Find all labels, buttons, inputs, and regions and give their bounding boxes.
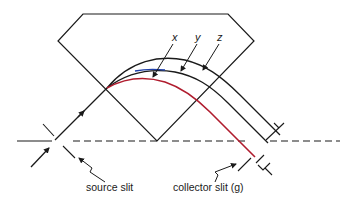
collector-exit	[266, 123, 284, 140]
leader-source-slit	[79, 158, 105, 182]
leader-x	[153, 44, 173, 77]
label-x: x	[171, 31, 178, 43]
leader-z	[203, 44, 219, 70]
incoming-beam-arrow	[31, 148, 49, 167]
label-collector-slit: collector slit (g)	[173, 181, 244, 193]
beam-entry-arrowhead	[78, 111, 84, 117]
ion-path-y	[107, 71, 268, 143]
magnet-sector	[58, 14, 254, 141]
mass-spectrometer-diagram: x y z source slit collector slit (g)	[0, 0, 350, 203]
label-y: y	[194, 31, 202, 43]
label-z: z	[216, 31, 223, 43]
leader-y	[181, 44, 197, 71]
ion-path-x	[107, 79, 255, 157]
leader-collector-slit	[215, 164, 236, 182]
collector-slit	[238, 155, 272, 175]
label-source-slit: source slit	[86, 181, 133, 193]
